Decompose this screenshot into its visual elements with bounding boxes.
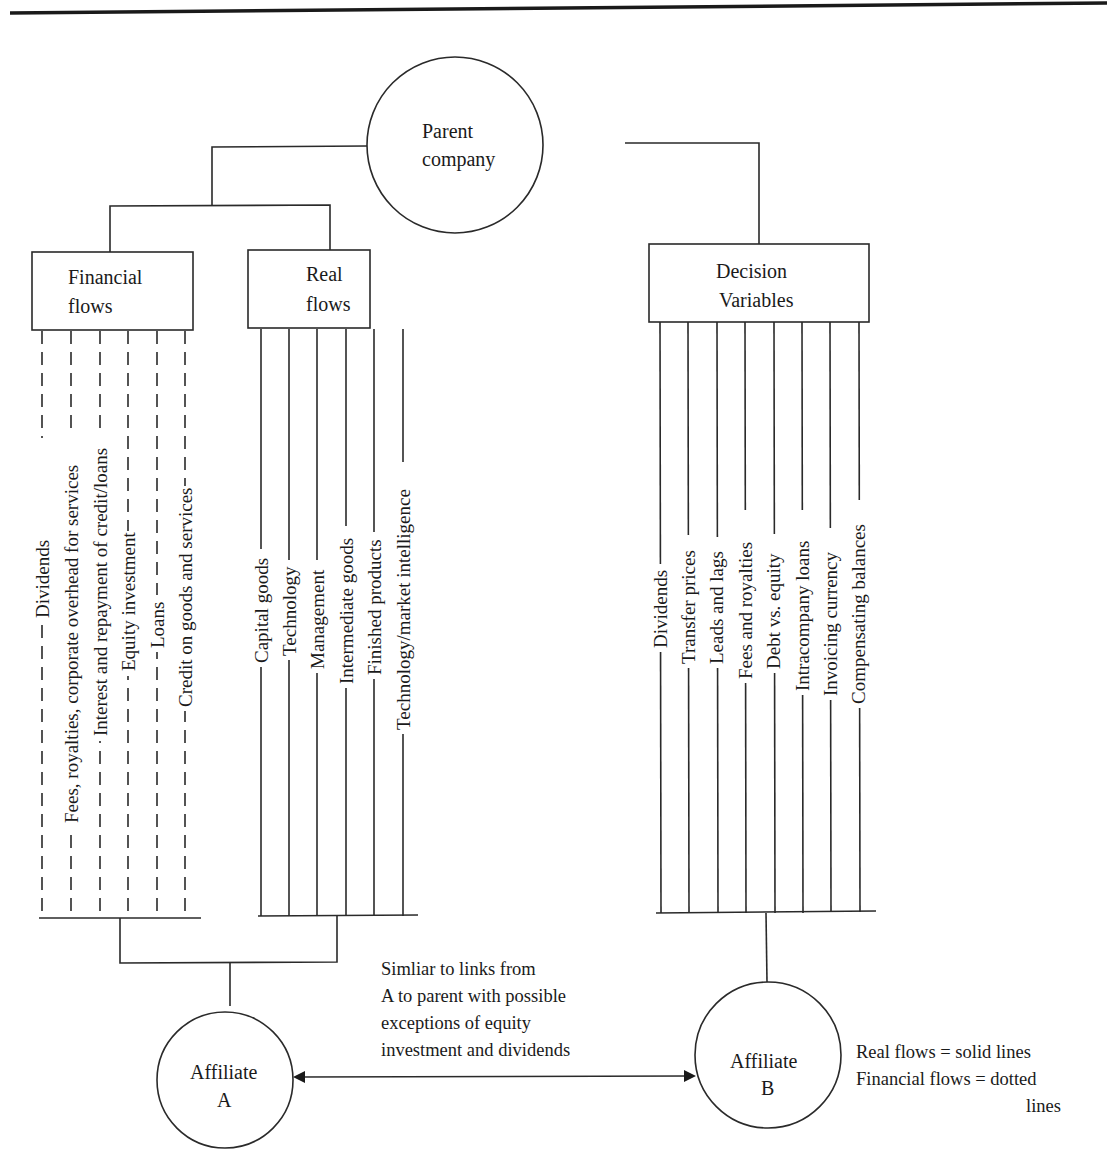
legend-real-flows: Real flows = solid lines (856, 1042, 1031, 1062)
decision-variable-label: Transfer prices (678, 550, 699, 664)
real-box-line1: Real (306, 263, 343, 285)
decision-to-affiliate-b-connector (766, 913, 767, 982)
flow-diagram: Parent company Financial flows Real flow… (0, 0, 1112, 1175)
real-flow-label: Finished products (364, 539, 385, 675)
decision-variable-label: Compensating balances (848, 524, 869, 704)
decision-variable-label: Fees and royalties (735, 542, 756, 679)
decision-box-line2: Variables (719, 289, 794, 311)
decision-variable-label: Intracompany loans (792, 541, 813, 691)
legend-financial-flows-cont: lines (1026, 1096, 1061, 1116)
real-flow-label: Management (307, 569, 328, 669)
affiliate-a-node: Affiliate A (157, 1012, 293, 1148)
parent-label-line1: Parent (422, 120, 474, 142)
parent-to-left-connector (110, 146, 367, 252)
decision-box-line1: Decision (716, 260, 787, 282)
link-note-line: exceptions of equity (381, 1013, 532, 1033)
affiliate-a-line1: Affiliate (190, 1061, 258, 1083)
financial-box-line1: Financial (68, 266, 143, 288)
financial-flow-label: Dividends (32, 540, 53, 618)
financial-box-line2: flows (68, 295, 113, 317)
financial-flow-lines: Dividends Fees, royalties, corporate ove… (32, 331, 201, 918)
financial-flow-label: Credit on goods and services (175, 487, 196, 707)
affiliate-b-line1: Affiliate (730, 1050, 798, 1072)
legend-financial-flows: Financial flows = dotted (856, 1069, 1037, 1089)
affiliate-b-line2: B (761, 1077, 774, 1099)
link-note-line: investment and dividends (381, 1040, 570, 1060)
affiliate-b-node: Affiliate B (695, 982, 841, 1128)
parent-label-line2: company (422, 148, 495, 171)
real-flow-label: Capital goods (251, 558, 272, 663)
real-flows-box: Real flows (248, 250, 370, 328)
real-base-line (258, 915, 418, 916)
parent-company-node: Parent company (367, 57, 543, 233)
financial-flow-label: Interest and repayment of credit/loans (90, 448, 111, 736)
top-rule (10, 3, 1107, 13)
flows-to-affiliate-a-connector (120, 916, 337, 1006)
decision-variable-label: Leads and lags (706, 551, 727, 664)
decision-variable-label: Debt vs. equity (763, 553, 784, 669)
parent-to-decision-connector (625, 143, 759, 244)
affiliate-link-arrow (293, 1070, 696, 1083)
real-flow-label: Technology (279, 566, 300, 656)
link-note-line: A to parent with possible (381, 986, 566, 1006)
real-flow-lines: Capital goods Technology Management Inte… (251, 329, 418, 916)
financial-flow-label: Loans (147, 602, 168, 648)
decision-variables-box: Decision Variables (649, 244, 869, 322)
decision-variable-label: Dividends (650, 570, 671, 648)
decision-variable-lines: Dividends Transfer prices Leads and lags… (650, 322, 876, 982)
affiliate-a-line2: A (217, 1089, 232, 1111)
financial-flow-label: Fees, royalties, corporate overhead for … (61, 465, 82, 823)
arrowhead-right-icon (684, 1070, 696, 1082)
real-flow-label: Intermediate goods (336, 538, 357, 684)
financial-flow-label: Equity investment (118, 531, 139, 671)
financial-flows-box: Financial flows (32, 252, 193, 330)
parent-circle (367, 57, 543, 233)
arrowhead-left-icon (293, 1071, 305, 1083)
real-box-line2: flows (306, 293, 351, 315)
link-note: Simliar to links from A to parent with p… (381, 959, 570, 1060)
link-note-line: Simliar to links from (381, 959, 536, 979)
legend: Real flows = solid lines Financial flows… (856, 1042, 1061, 1116)
decision-variable-label: Invoicing currency (820, 551, 841, 696)
real-flow-label: Technology/market intelligence (393, 489, 414, 730)
